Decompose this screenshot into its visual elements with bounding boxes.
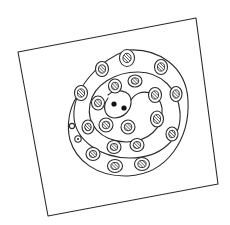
nucleus-icon [173, 90, 180, 98]
cell [166, 127, 178, 141]
cell [108, 160, 123, 173]
cell [135, 158, 150, 171]
small-cell [69, 123, 74, 128]
cell [170, 87, 182, 102]
cell [121, 120, 135, 134]
nucleus-icon [138, 160, 146, 167]
nucleus-icon [111, 82, 118, 90]
spiral-line-0 [105, 91, 131, 118]
nucleus-icon [102, 121, 110, 129]
cell [109, 79, 122, 93]
small-cell-wall [69, 123, 74, 128]
nucleus-icon [85, 123, 92, 131]
diagram-canvas [0, 0, 230, 225]
cell [82, 120, 94, 134]
cell [130, 139, 144, 152]
cell [128, 75, 142, 87]
nucleus-icon [77, 89, 84, 97]
nucleus-icon [89, 150, 97, 157]
cell [151, 111, 164, 127]
cell [107, 141, 121, 154]
nucleus-icon [98, 65, 105, 73]
frame-group [18, 18, 218, 216]
nucleus-icon [123, 53, 131, 62]
cell [155, 60, 168, 75]
nucleus-icon [157, 63, 164, 71]
cell [149, 88, 162, 103]
square-frame [18, 18, 218, 216]
nucleus-icon [131, 78, 139, 85]
nucleus-icon [111, 162, 119, 169]
center-dot [121, 105, 126, 110]
nucleus-icon [110, 143, 118, 150]
nucleus-icon [153, 115, 160, 124]
cell [99, 118, 113, 132]
nucleus-icon [151, 91, 158, 99]
cell [96, 62, 109, 77]
center-dots-group [111, 101, 126, 110]
cell [92, 96, 105, 110]
cell [120, 50, 135, 67]
nucleus-icon [169, 130, 176, 138]
center-dot [111, 101, 116, 106]
nucleus-icon [124, 123, 132, 131]
nucleus-icon [133, 141, 141, 148]
nucleus-icon [94, 99, 101, 107]
small-cell-dot [77, 138, 79, 140]
cell [86, 148, 100, 161]
small-cell [75, 136, 81, 142]
cell [75, 86, 88, 101]
